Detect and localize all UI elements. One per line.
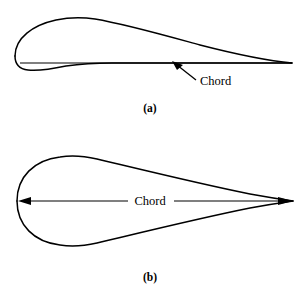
airfoil-a-upper-surface — [15, 18, 292, 63]
panel-caption-a: (a) — [143, 102, 157, 115]
chord-arrowhead-left-b — [18, 197, 31, 205]
figure-canvas: Chord (a) Chord (b) — [0, 0, 306, 289]
chord-label-a: Chord — [200, 74, 232, 88]
chord-label-b: Chord — [134, 194, 166, 208]
airfoil-chord-figure: Chord (a) Chord (b) — [0, 0, 306, 289]
panel-a-group: Chord (a) — [15, 18, 292, 115]
panel-caption-b: (b) — [143, 271, 157, 284]
chord-arrowhead-right-b — [278, 197, 293, 205]
panel-b-group: Chord (b) — [17, 156, 293, 284]
